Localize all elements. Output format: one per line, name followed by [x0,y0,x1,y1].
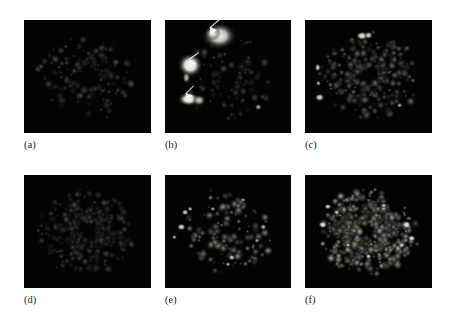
micrograph-image-b [165,20,291,133]
panel-d [24,175,151,288]
panel-a [24,20,151,133]
micrograph-image-f [305,175,432,288]
micrograph-canvas-b [165,20,291,133]
panel-label-e: (e) [165,294,177,306]
panel-label-d: (d) [24,294,36,306]
panel-e [165,175,291,288]
panel-label-a: (a) [24,139,36,151]
figure-panel-grid: (a)(b)(c)(d)(e)(f) [0,0,452,328]
micrograph-image-d [24,175,151,288]
micrograph-canvas-c [305,20,432,133]
micrograph-canvas-a [24,20,151,133]
panel-b [165,20,291,133]
panel-label-c: (c) [305,139,317,151]
micrograph-image-a [24,20,151,133]
panel-c [305,20,432,133]
micrograph-canvas-d [24,175,151,288]
micrograph-canvas-e [165,175,291,288]
panel-f [305,175,432,288]
panel-label-f: (f) [305,294,316,306]
micrograph-canvas-f [305,175,432,288]
micrograph-image-c [305,20,432,133]
micrograph-image-e [165,175,291,288]
panel-label-b: (b) [165,139,177,151]
